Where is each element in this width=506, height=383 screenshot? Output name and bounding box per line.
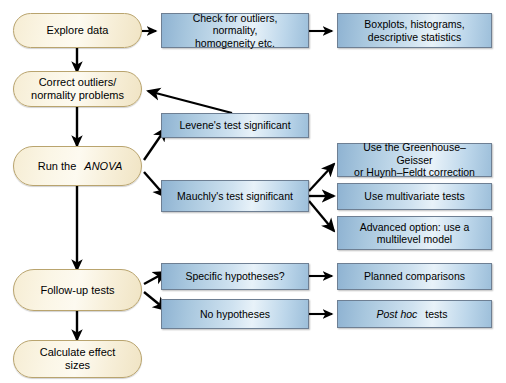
node-no-hypotheses[interactable]: No hypotheses [161,299,309,329]
node-run-anova-emphasis: ANOVA [84,160,122,172]
node-run-anova-label: Run the ANOVA [28,160,128,173]
node-calculate-effect-sizes-label: Calculate effect sizes [30,346,126,372]
node-follow-up-tests[interactable]: Follow-up tests [13,269,142,311]
node-post-hoc-emphasis: Post hoc [377,308,418,320]
node-planned-comparisons-label: Planned comparisons [359,270,470,282]
flowchart-canvas: Explore data Correct outliers/ normality… [0,0,506,383]
node-correct-outliers[interactable]: Correct outliers/ normality problems [13,71,142,107]
node-check-assumptions-line2: homogeneity etc. [167,37,303,49]
node-no-hypotheses-label: No hypotheses [195,308,275,320]
node-explore-data[interactable]: Explore data [13,13,142,48]
node-calculate-effect-sizes[interactable]: Calculate effect sizes [13,340,142,378]
node-multivariate-tests[interactable]: Use multivariate tests [337,183,492,210]
node-post-hoc-tests-label: Post hoc tests [372,308,458,320]
node-levene[interactable]: Levene's test significant [161,113,309,138]
node-specific-hypotheses[interactable]: Specific hypotheses? [161,263,309,290]
node-check-assumptions[interactable]: Check for outliers, normality, homogenei… [161,13,309,48]
node-levene-label: Levene's test significant [174,119,295,131]
node-correct-outliers-line2: normality problems [26,89,129,102]
node-check-assumptions-label: Check for outliers, normality, homogenei… [162,12,308,49]
node-planned-comparisons[interactable]: Planned comparisons [337,263,492,290]
node-post-hoc-tests[interactable]: Post hoc tests [337,300,492,328]
edge-levene-to-correct [148,91,232,113]
edge-mauchly-to-greenhouse [309,164,334,191]
node-calculate-effect-sizes-line2: sizes [35,359,121,372]
node-multilevel-line2: multilevel model [355,233,475,245]
node-boxplots[interactable]: Boxplots, histograms, descriptive statis… [337,13,492,48]
node-boxplots-line1: Boxplots, histograms, [359,18,469,30]
node-explore-data-label: Explore data [42,24,114,37]
node-multilevel-model[interactable]: Advanced option: use a multilevel model [337,216,492,250]
node-follow-up-tests-label: Follow-up tests [36,284,120,297]
node-run-anova-prefix: Run the [33,160,85,172]
node-boxplots-line2: descriptive statistics [359,31,469,43]
node-mauchly-label: Mauchly's test significant [172,190,298,202]
node-greenhouse-geisser-label: Use the Greenhouse–Geisser or Huynh–Feld… [338,141,491,178]
node-multilevel-line1: Advanced option: use a [355,221,475,233]
node-check-assumptions-line1: Check for outliers, normality, [167,12,303,37]
node-correct-outliers-label: Correct outliers/ normality problems [21,76,134,102]
node-calculate-effect-sizes-line1: Calculate effect [35,346,121,359]
node-post-hoc-suffix: tests [417,308,452,320]
node-multivariate-tests-label: Use multivariate tests [359,190,469,202]
node-greenhouse-line1: Use the Greenhouse–Geisser [343,141,486,166]
node-greenhouse-geisser[interactable]: Use the Greenhouse–Geisser or Huynh–Feld… [337,143,492,177]
node-correct-outliers-line1: Correct outliers/ [26,76,129,89]
node-run-anova[interactable]: Run the ANOVA [13,146,142,186]
node-greenhouse-line2: or Huynh–Feldt correction [343,166,486,178]
node-boxplots-label: Boxplots, histograms, descriptive statis… [354,18,474,43]
edge-mauchly-to-multilevel [309,201,334,231]
node-multilevel-model-label: Advanced option: use a multilevel model [350,221,480,246]
node-specific-hypotheses-label: Specific hypotheses? [180,270,289,282]
node-mauchly[interactable]: Mauchly's test significant [161,180,309,212]
